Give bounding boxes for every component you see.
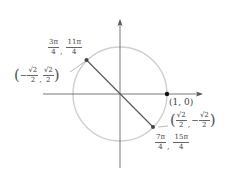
coord-label-one-zero: (1, 0): [169, 98, 193, 107]
minus-sign: −: [20, 70, 28, 80]
angle-fraction: 11π 4: [66, 39, 82, 56]
coord-label-upper-left: (− √2 2 , √2 2 ): [14, 67, 60, 84]
comma: ,: [60, 47, 63, 56]
angle-label-lower-right: 7π 4 , 15π 4: [155, 134, 189, 151]
fraction-denominator: 4: [66, 48, 82, 56]
coord-fraction-y: √2 2: [199, 112, 210, 129]
fraction-numerator: √2: [27, 67, 38, 76]
point-upper-left: [85, 58, 89, 62]
close-paren: ): [210, 111, 216, 129]
fraction-numerator: 3π: [48, 39, 59, 48]
point-one-zero: [165, 92, 169, 96]
comma: ,: [39, 75, 42, 84]
angle-fraction: 7π 4: [155, 134, 166, 151]
fraction-numerator: 11π: [66, 39, 82, 48]
comma: ,: [188, 120, 191, 129]
coord-fraction-x: √2 2: [27, 67, 38, 84]
fraction-denominator: 2: [27, 76, 38, 84]
fraction-denominator: 4: [48, 48, 59, 56]
unit-circle-figure: [0, 0, 232, 171]
fraction-numerator: √2: [43, 67, 54, 76]
coord-label-lower-right: ( √2 2 ,− √2 2 ): [170, 112, 216, 129]
leader-line-lower-right: [158, 126, 168, 127]
fraction-denominator: 2: [199, 121, 210, 129]
fraction-denominator: 4: [155, 143, 166, 151]
fraction-denominator: 2: [176, 121, 187, 129]
angle-label-upper-left: 3π 4 , 11π 4: [48, 39, 82, 56]
fraction-denominator: 4: [173, 143, 189, 151]
angle-fraction: 3π 4: [48, 39, 59, 56]
angle-fraction: 15π 4: [173, 134, 189, 151]
fraction-numerator: √2: [199, 112, 210, 121]
fraction-numerator: 7π: [155, 134, 166, 143]
coord-fraction-y: √2 2: [43, 67, 54, 84]
minus-sign: −: [191, 115, 199, 125]
fraction-numerator: √2: [176, 112, 187, 121]
fraction-numerator: 15π: [173, 134, 189, 143]
coord-fraction-x: √2 2: [176, 112, 187, 129]
leader-line-upper-left: [70, 62, 85, 73]
close-paren: ): [54, 66, 60, 84]
fraction-denominator: 2: [43, 76, 54, 84]
comma: ,: [167, 142, 170, 151]
point-lower-right: [151, 125, 155, 129]
